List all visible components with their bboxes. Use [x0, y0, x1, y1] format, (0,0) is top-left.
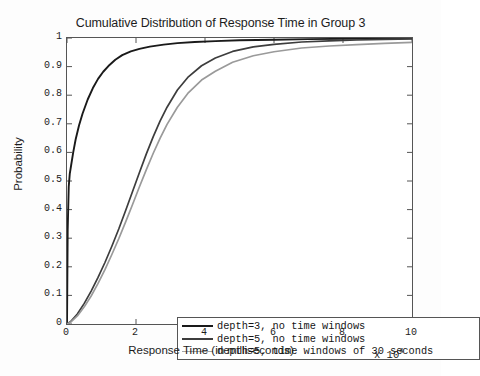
series-line-2 [67, 42, 412, 324]
y-tick-label: 0.4 [26, 204, 62, 214]
y-axis-tick-labels: 00.10.20.30.40.50.60.70.80.91 [24, 0, 62, 376]
y-tick-label: 1 [26, 32, 62, 42]
y-tick-label: 0.9 [26, 61, 62, 71]
chart-title: Cumulative Distribution of Response Time… [0, 16, 441, 30]
x-tick-label: 4 [189, 327, 219, 338]
x-tick-label: 8 [327, 327, 357, 338]
x-axis-exponent: x 104 [374, 347, 403, 361]
plot-curves [67, 38, 412, 324]
x-axis-tick-labels: 0246810 [0, 327, 441, 343]
y-tick-label: 0.6 [26, 146, 62, 156]
y-tick-label: 0.1 [26, 289, 62, 299]
plot-area: depth=3, no time windows depth=5, no tim… [66, 37, 413, 325]
x-exponent-prefix: x 10 [374, 349, 399, 361]
y-axis-label: Probability [12, 119, 24, 209]
y-tick-label: 0.7 [26, 118, 62, 128]
y-tick-label: 0.3 [26, 232, 62, 242]
x-axis-label: Response Time (in milliseconds) [66, 344, 356, 356]
y-tick-label: 0.2 [26, 261, 62, 271]
series-line-1 [67, 39, 412, 324]
x-exponent-power: 4 [399, 347, 403, 355]
x-tick-label: 0 [51, 327, 81, 338]
y-tick-label: 0.5 [26, 175, 62, 185]
series-line-0 [67, 38, 412, 324]
x-tick-label: 2 [120, 327, 150, 338]
y-tick-label: 0.8 [26, 89, 62, 99]
x-tick-label: 6 [258, 327, 288, 338]
x-tick-label: 10 [396, 327, 426, 338]
